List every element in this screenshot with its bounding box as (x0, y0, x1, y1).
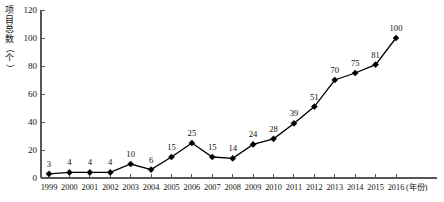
data-value-label: 100 (390, 23, 403, 33)
data-markers (46, 35, 399, 177)
data-point-marker (87, 169, 93, 175)
x-axis-title: (年份) (406, 182, 428, 192)
y-axis-tick-labels: 020406080100120 (24, 5, 38, 183)
data-value-label: 4 (67, 157, 72, 167)
y-tick-label: 100 (24, 33, 38, 43)
x-axis-tick-labels: 1999200020012002200320042005200620072008… (41, 183, 405, 192)
x-tick-label: 2008 (224, 183, 241, 192)
y-axis-ticks (41, 10, 45, 178)
y-tick-label: 60 (28, 89, 38, 99)
data-value-label: 28 (269, 124, 278, 134)
data-value-label: 6 (149, 155, 154, 165)
x-tick-label: 2015 (367, 183, 384, 192)
x-tick-label: 2003 (122, 183, 139, 192)
x-tick-label: 2005 (163, 183, 180, 192)
data-series-line (49, 38, 396, 174)
x-tick-label: 2001 (82, 183, 99, 192)
data-value-label: 70 (330, 65, 339, 75)
y-tick-label: 120 (24, 5, 38, 15)
x-tick-label: 2014 (347, 183, 364, 192)
data-value-label: 3 (47, 159, 51, 169)
x-tick-label: 2000 (61, 183, 78, 192)
x-tick-label: 2016 (388, 183, 405, 192)
x-tick-label: 2009 (245, 183, 262, 192)
data-value-label: 4 (108, 157, 113, 167)
x-tick-label: 2012 (306, 183, 323, 192)
data-value-label: 51 (310, 92, 319, 102)
y-tick-label: 40 (28, 117, 38, 127)
data-value-label: 81 (371, 50, 380, 60)
data-value-labels: 34441061525151424283951707581100 (47, 23, 403, 169)
data-value-label: 14 (228, 143, 237, 153)
data-value-label: 10 (126, 149, 135, 159)
x-axis-ticks (49, 174, 396, 178)
x-tick-label: 1999 (41, 183, 58, 192)
y-tick-label: 0 (33, 173, 38, 183)
data-value-label: 24 (249, 129, 258, 139)
chart-canvas: 34441061525151424283951707581100 1999200… (0, 0, 444, 202)
x-tick-label: 2007 (204, 183, 221, 192)
x-tick-label: 2002 (102, 183, 119, 192)
data-point-marker (148, 167, 154, 173)
x-tick-label: 2004 (143, 183, 160, 192)
data-value-label: 75 (351, 58, 360, 68)
data-value-label: 4 (88, 157, 93, 167)
x-tick-label: 2011 (286, 183, 302, 192)
data-value-label: 25 (188, 128, 197, 138)
x-tick-label: 2006 (184, 183, 201, 192)
data-point-marker (107, 169, 113, 175)
data-point-marker (66, 169, 72, 175)
line-chart: 项目总数（个） 34441061525151424283951707581100… (0, 0, 444, 202)
x-tick-label: 2013 (326, 183, 343, 192)
data-point-marker (128, 161, 134, 167)
data-value-label: 15 (208, 142, 217, 152)
x-tick-label: 2010 (265, 183, 282, 192)
data-value-label: 15 (167, 142, 176, 152)
y-tick-label: 20 (28, 145, 38, 155)
data-value-label: 39 (290, 108, 299, 118)
data-point-marker (352, 70, 358, 76)
y-tick-label: 80 (28, 61, 38, 71)
data-point-marker (46, 171, 52, 177)
